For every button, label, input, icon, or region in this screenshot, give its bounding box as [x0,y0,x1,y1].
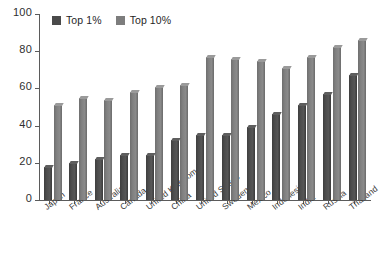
bar-top-face [282,66,292,69]
bar-body [95,159,103,200]
y-axis-tick-mark [35,51,39,52]
bar-top-face [180,83,190,86]
bar [146,155,154,200]
bar-top-face [155,85,165,88]
y-axis-tick-label: 0 [26,192,32,204]
bar [307,57,315,200]
y-axis-tick-mark [35,163,39,164]
bar-body [222,135,230,200]
bar [333,47,341,200]
square-swatch-icon [116,16,125,25]
bar-top-face [307,55,317,58]
bar-body [120,155,128,200]
bar-body [231,59,239,200]
bar-top-face [222,133,232,136]
bar [104,100,112,200]
bar [257,61,265,201]
bar [298,105,306,200]
y-axis-tick-label: 80 [19,43,32,55]
y-axis-tick-label: 20 [19,155,32,167]
y-axis-tick-mark [35,88,39,89]
bar [196,135,204,200]
y-axis-tick-label: 60 [19,80,32,92]
bar-group [142,14,167,200]
bar-body [282,68,290,200]
y-axis-tick: 0 [0,200,39,201]
y-axis-tick: 20 [0,163,39,164]
bar-top-face [120,153,130,156]
bar-group [218,14,243,200]
bar-body [180,85,188,200]
bar-top-face [323,92,333,95]
bar [247,127,255,200]
bar-top-face [196,133,206,136]
bar-body [349,75,357,200]
bar [349,75,357,200]
bar [54,105,62,200]
y-axis-tick-label: 100 [13,6,32,18]
chart-legend: Top 1%Top 10% [52,14,171,26]
bar [44,167,52,200]
square-swatch-icon [52,16,61,25]
bar-body [196,135,204,200]
bar-body [298,105,306,200]
bar-group [319,14,344,200]
bar-top-face [257,59,267,62]
y-axis-tick-mark [35,200,39,201]
bar [272,114,280,200]
bar [130,92,138,200]
bar-group [243,14,268,200]
y-axis-tick: 100 [0,14,39,15]
bar-body [79,98,87,200]
bar-top-face [358,38,368,41]
bar-body [130,92,138,200]
bar [231,59,239,200]
bar [171,140,179,200]
bar [69,163,77,200]
bar-body [358,40,366,200]
bar-top-face [349,73,359,76]
bar-top-face [298,103,308,106]
bar-group [91,14,116,200]
bar-body [69,163,77,200]
bar-group [268,14,293,200]
bar [79,98,87,200]
bar [95,159,103,200]
bar-body [257,61,265,201]
bar-chart: 020406080100 JapanFranceAustraliaCanadaU… [0,0,379,276]
bar-body [333,47,341,200]
bar [282,68,290,200]
bar-top-face [104,98,114,101]
bar-body [54,105,62,200]
bar [358,40,366,200]
bar-body [171,140,179,200]
bar-group [116,14,141,200]
y-axis-tick-label: 40 [19,118,32,130]
y-axis-tick-mark [35,126,39,127]
bar-group [40,14,65,200]
bar-group [65,14,90,200]
bar-body [206,57,214,200]
legend-label: Top 10% [130,14,172,26]
bar-top-face [146,153,156,156]
bar-body [104,100,112,200]
bar-top-face [54,103,64,106]
bar-body [272,114,280,200]
y-axis-tick: 80 [0,51,39,52]
bar-group [345,14,370,200]
bar-top-face [44,165,54,168]
bar-body [323,94,331,200]
bar-body [44,167,52,200]
bar [222,135,230,200]
bar-body [247,127,255,200]
bar [155,87,163,200]
bar-top-face [130,90,140,93]
y-axis-tick: 40 [0,126,39,127]
bar-top-face [79,96,89,99]
bar [323,94,331,200]
bar-body [155,87,163,200]
bar-top-face [206,55,216,58]
legend-item[interactable]: Top 10% [116,14,172,26]
legend-item[interactable]: Top 1% [52,14,102,26]
bars-layer [40,14,370,200]
